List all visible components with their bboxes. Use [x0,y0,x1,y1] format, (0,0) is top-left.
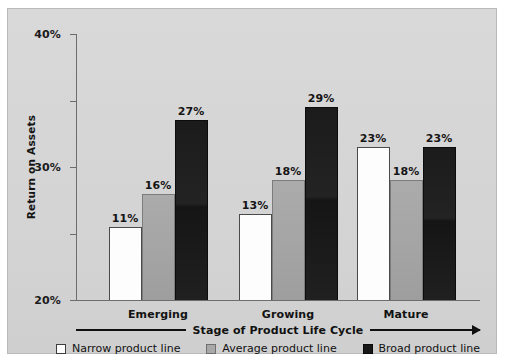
legend-item-broad[interactable]: Broad product line [363,342,480,355]
bar-value-label: 27% [178,105,205,118]
legend-item-average[interactable]: Average product line [206,342,336,355]
legend-label: Narrow product line [72,342,180,355]
bar-value-label: 23% [360,132,387,145]
y-tick-10%: 10% [70,234,77,235]
legend-item-narrow[interactable]: Narrow product line [56,342,180,355]
bar-value-label: 16% [145,179,172,192]
category-label-mature: Mature [384,308,429,321]
bar-emerging-average: 16% [142,194,175,300]
x-axis-title-band: Stage of Product Life Cycle [76,323,480,337]
bar-emerging-narrow: 11% [109,227,142,300]
y-tick-label: 30% [34,161,61,174]
y-tick-label: 40% [34,28,61,41]
chart-legend: Narrow product lineAverage product lineB… [56,342,480,355]
bar-mature-narrow: 23% [357,147,390,300]
bar-growing-narrow: 13% [239,214,272,300]
y-tick-40%: 40% [70,34,77,35]
legend-label: Average product line [222,342,336,355]
legend-swatch-narrow-icon [56,344,66,354]
bar-value-label: 18% [393,165,420,178]
bar-growing-average: 18% [272,180,305,300]
legend-swatch-broad-icon [363,344,373,354]
x-axis-rule-right-with-arrow [370,329,480,331]
legend-swatch-average-icon [206,344,216,354]
bar-emerging-broad: 27% [175,120,208,300]
bar-growing-broad: 29% [305,107,338,300]
x-axis-rule-left [76,329,186,331]
y-tick-30%: 30% [70,101,77,102]
legend-label: Broad product line [379,342,480,355]
plot-area: 010%20%30%40% 11%16%27%13%18%29%23%18%23… [76,34,480,300]
chart-panel: Return on Assets 010%20%30%40% 11%16%27%… [7,8,497,354]
bar-mature-broad: 23% [423,147,456,300]
bar-value-label: 29% [308,92,335,105]
x-axis-title: Stage of Product Life Cycle [193,324,364,337]
bar-value-label: 13% [242,199,269,212]
y-tick-20%: 20% [70,167,77,168]
category-label-emerging: Emerging [128,308,188,321]
x-axis-line [76,300,480,301]
chart-figure: Return on Assets 010%20%30%40% 11%16%27%… [0,0,505,362]
bar-value-label: 11% [112,212,139,225]
bar-value-label: 23% [426,132,453,145]
y-tick-0: 0 [70,300,77,301]
category-label-growing: Growing [262,308,314,321]
bar-mature-average: 18% [390,180,423,300]
bar-value-label: 18% [275,165,302,178]
y-tick-label: 20% [34,294,61,307]
